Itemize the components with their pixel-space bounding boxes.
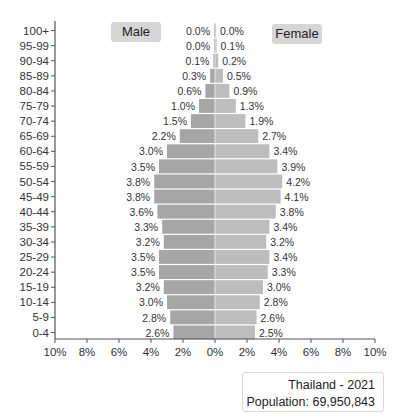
male-value-label: 0.0% xyxy=(186,25,210,37)
female-bar xyxy=(215,310,257,324)
male-value-label: 3.5% xyxy=(131,251,155,263)
female-value-label: 3.8% xyxy=(280,206,304,218)
x-tick-label: 2% xyxy=(175,346,192,358)
male-value-label: 3.2% xyxy=(136,281,160,293)
male-value-label: 3.5% xyxy=(131,161,155,173)
y-tick-label: 75-79 xyxy=(20,100,49,112)
y-tick-label: 45-49 xyxy=(20,191,49,203)
female-value-label: 3.9% xyxy=(281,161,305,173)
male-bar xyxy=(154,175,215,189)
info-box: Thailand - 2021 Population: 69,950,843 xyxy=(242,372,384,412)
info-population: Population: 69,950,843 xyxy=(243,394,375,411)
male-value-label: 1.5% xyxy=(163,115,187,127)
male-value-label: 0.0% xyxy=(186,40,210,52)
female-value-label: 2.6% xyxy=(261,312,285,324)
y-tick-label: 60-64 xyxy=(20,145,50,157)
female-bar xyxy=(215,129,258,143)
male-value-label: 0.3% xyxy=(182,70,206,82)
female-value-label: 3.4% xyxy=(273,221,297,233)
male-bar xyxy=(159,265,215,279)
female-bar xyxy=(215,235,266,249)
female-value-label: 0.2% xyxy=(222,55,246,67)
x-tick-label: 4% xyxy=(271,346,288,358)
y-tick-label: 85-89 xyxy=(20,70,49,82)
female-bar xyxy=(215,295,260,309)
y-tick-label: 90-94 xyxy=(20,55,50,67)
y-tick-label: 65-69 xyxy=(20,130,49,142)
x-tick-label: 0% xyxy=(207,346,224,358)
female-bar xyxy=(215,84,229,98)
female-value-label: 4.2% xyxy=(286,176,310,188)
male-value-label: 3.0% xyxy=(139,296,163,308)
male-value-label: 3.0% xyxy=(139,145,163,157)
male-value-label: 3.3% xyxy=(134,221,158,233)
male-bar xyxy=(167,144,215,158)
female-value-label: 0.0% xyxy=(220,25,244,37)
y-tick-label: 35-39 xyxy=(20,221,49,233)
male-value-label: 1.0% xyxy=(171,100,195,112)
male-bar xyxy=(205,84,215,98)
male-bar xyxy=(164,280,215,294)
legend-female: Female xyxy=(272,24,322,44)
female-bar xyxy=(215,99,236,113)
y-tick-label: 95-99 xyxy=(20,40,49,52)
female-bar xyxy=(215,280,263,294)
female-value-label: 3.0% xyxy=(267,281,291,293)
y-tick-label: 25-29 xyxy=(20,251,49,263)
female-value-label: 3.3% xyxy=(272,266,296,278)
y-tick-label: 55-59 xyxy=(20,160,49,172)
female-bar xyxy=(215,114,245,128)
x-tick-label: 10% xyxy=(43,346,66,358)
female-bar xyxy=(215,69,223,83)
male-value-label: 2.8% xyxy=(142,312,166,324)
male-value-label: 2.2% xyxy=(152,130,176,142)
male-bar xyxy=(210,69,215,83)
y-tick-label: 5-9 xyxy=(32,311,49,323)
male-bar xyxy=(191,114,215,128)
male-bar xyxy=(170,310,215,324)
female-bar xyxy=(215,190,281,204)
male-value-label: 3.2% xyxy=(136,236,160,248)
male-value-label: 3.8% xyxy=(126,176,150,188)
male-bar xyxy=(157,205,215,219)
female-value-label: 3.4% xyxy=(273,145,297,157)
male-bar xyxy=(167,295,215,309)
male-bar xyxy=(199,99,215,113)
female-bar xyxy=(215,175,282,189)
male-bar xyxy=(180,129,215,143)
female-value-label: 3.4% xyxy=(273,251,297,263)
y-tick-label: 40-44 xyxy=(20,206,50,218)
female-bar xyxy=(215,144,269,158)
female-bar xyxy=(215,265,268,279)
male-value-label: 2.6% xyxy=(145,327,169,339)
y-tick-label: 10-14 xyxy=(20,296,50,308)
male-bar xyxy=(164,235,215,249)
y-tick-label: 15-19 xyxy=(20,281,49,293)
female-value-label: 1.3% xyxy=(240,100,264,112)
y-tick-label: 30-34 xyxy=(20,236,50,248)
y-axis: 100+95-9990-9485-8980-8475-7970-7465-696… xyxy=(20,21,55,339)
bars-layer xyxy=(154,23,282,339)
male-bar xyxy=(173,326,215,340)
info-title: Thailand - 2021 xyxy=(243,377,375,394)
female-value-label: 2.8% xyxy=(264,296,288,308)
x-tick-label: 8% xyxy=(335,346,352,358)
male-bar xyxy=(159,250,215,264)
y-tick-label: 70-74 xyxy=(20,115,50,127)
x-tick-label: 8% xyxy=(79,346,96,358)
x-tick-label: 2% xyxy=(239,346,256,358)
x-tick-label: 4% xyxy=(143,346,160,358)
female-value-label: 4.1% xyxy=(285,191,309,203)
x-tick-label: 10% xyxy=(363,346,386,358)
y-tick-label: 0-4 xyxy=(32,327,49,339)
female-value-label: 0.9% xyxy=(233,85,257,97)
male-bar xyxy=(162,220,215,234)
x-axis: 10%8%6%4%2%0%2%4%6%8%10% xyxy=(43,339,386,358)
y-tick-label: 80-84 xyxy=(20,85,50,97)
male-value-label: 3.6% xyxy=(129,206,153,218)
female-bar xyxy=(215,205,276,219)
female-value-label: 0.1% xyxy=(221,40,245,52)
male-value-label: 0.6% xyxy=(177,85,201,97)
male-bar xyxy=(159,159,215,173)
female-bar xyxy=(215,326,255,340)
